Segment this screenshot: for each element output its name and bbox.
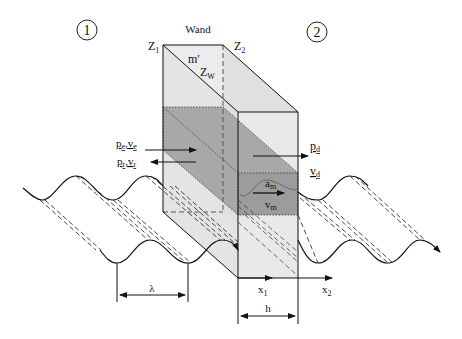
x2-label: x2 <box>322 283 332 298</box>
transmitted-wave-upper <box>298 176 368 200</box>
reflected-label: pr,vr <box>117 155 136 169</box>
z2-label: Z2 <box>234 39 245 55</box>
transmitted-wave-lower <box>298 240 440 263</box>
incident-wave-upper <box>23 176 163 200</box>
region-2-label: 2 <box>314 25 321 40</box>
incident-label: pe,ve <box>116 137 137 151</box>
wall-title: Wand <box>185 23 211 35</box>
wavelength-label: λ <box>149 282 155 294</box>
mass-label: m′ <box>188 52 200 66</box>
thickness-dimension <box>238 278 298 324</box>
z1-label: Z1 <box>148 39 159 55</box>
wall-transmission-diagram: 1 2 Wand Z1 Z2 m′ ZW pe,ve pr,vr pd vd a… <box>0 0 462 339</box>
transmitted-pressure-label: pd <box>310 139 320 154</box>
region-2-marker: 2 <box>307 22 327 42</box>
thickness-label: h <box>265 302 271 314</box>
transmitted-velocity-label: vd <box>310 164 320 179</box>
x1-label: x1 <box>258 283 268 298</box>
region-1-label: 1 <box>84 23 91 38</box>
region-1-marker: 1 <box>77 20 97 40</box>
